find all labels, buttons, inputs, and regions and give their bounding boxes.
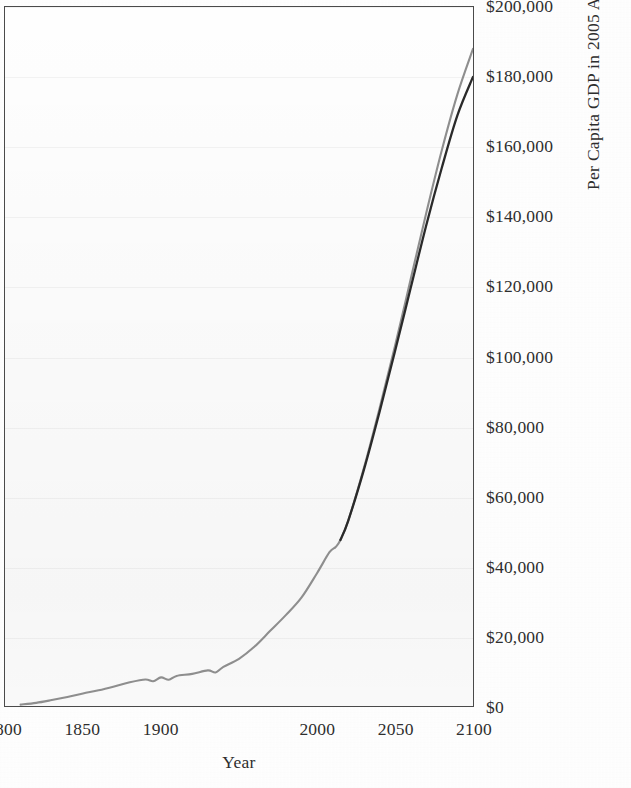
y-axis-tick-label: $60,000 — [486, 488, 586, 506]
y-axis-tick-label: $20,000 — [486, 628, 586, 646]
plot-area — [4, 6, 474, 707]
x-axis-tick-label: 1850 — [47, 718, 117, 740]
y-axis-tick-label: $200,000 — [486, 0, 586, 15]
per-capita-gdp-line-chart: $0$20,000$40,000$60,000$80,000$100,000$1… — [0, 0, 631, 788]
x-axis-tick-label: 2000 — [282, 718, 352, 740]
x-axis-tick-label: 2050 — [361, 718, 431, 740]
data-series-layer — [5, 7, 473, 706]
data-series-line — [340, 77, 473, 540]
y-axis-tick-label: $100,000 — [486, 348, 586, 366]
y-axis-title: Per Capita GDP in 2005 Australian Dollar… — [583, 0, 623, 190]
y-axis-tick-label: $0 — [486, 698, 586, 716]
x-axis-tick-label: 1900 — [126, 718, 196, 740]
y-axis-tick-labels: $0$20,000$40,000$60,000$80,000$100,000$1… — [486, 6, 594, 707]
y-axis-tick-label: $40,000 — [486, 558, 586, 576]
y-axis-tick-label: $160,000 — [486, 137, 586, 155]
y-axis-tick-label: $80,000 — [486, 418, 586, 436]
y-axis-tick-label: $180,000 — [486, 67, 586, 85]
y-axis-tick-label: $140,000 — [486, 207, 586, 225]
x-axis-tick-label: 1800 — [0, 718, 39, 740]
x-axis-tick-labels: 180018501900200020502100 — [0, 718, 500, 744]
y-axis-tick-label: $120,000 — [486, 277, 586, 295]
x-axis-title: Year — [0, 752, 478, 773]
x-axis-tick-label: 2100 — [439, 718, 509, 740]
data-series-line — [21, 49, 473, 705]
